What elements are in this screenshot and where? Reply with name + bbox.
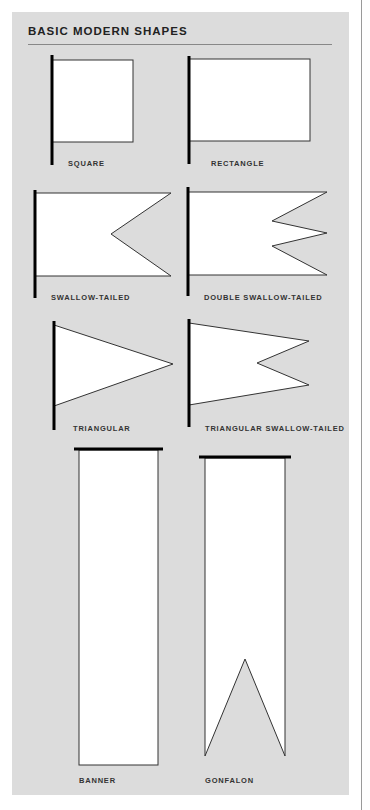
- label-double-swallow-tailed: DOUBLE SWALLOW-TAILED: [204, 293, 323, 302]
- label-triangular: TRIANGULAR: [73, 424, 131, 433]
- label-gonfalon: GONFALON: [205, 776, 254, 785]
- swallow-tailed-flag-icon: [35, 190, 171, 298]
- rectangle-flag-icon: [189, 56, 310, 164]
- triangular-swallow-tailed-flag-icon: [189, 319, 309, 427]
- label-swallow-tailed: SWALLOW-TAILED: [51, 293, 130, 302]
- label-square: SQUARE: [68, 159, 105, 168]
- gonfalon-flag-icon: [199, 457, 291, 756]
- square-flag-icon: [52, 55, 133, 165]
- triangular-flag-icon: [54, 321, 173, 430]
- label-triangular-swallow-tailed: TRIANGULAR SWALLOW-TAILED: [205, 424, 345, 433]
- double-swallow-tailed-flag-icon: [188, 187, 327, 296]
- banner-flag-icon: [74, 449, 163, 765]
- flag-shapes-illustration: [0, 0, 370, 810]
- label-rectangle: RECTANGLE: [211, 159, 264, 168]
- label-banner: BANNER: [79, 776, 116, 785]
